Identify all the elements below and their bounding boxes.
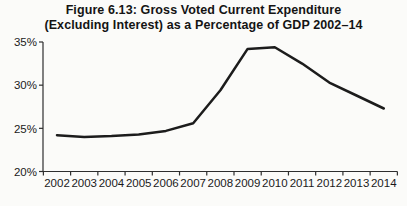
x-axis-tick-label: 2004 [99, 177, 125, 189]
line-chart-canvas: 20%25%30%35%2002200320042005200620072008… [0, 0, 407, 206]
y-axis-tick-label: 30% [14, 79, 37, 91]
x-axis-tick-label: 2002 [44, 177, 70, 189]
x-axis-tick-label: 2005 [126, 177, 152, 189]
x-axis-tick-label: 2007 [180, 177, 206, 189]
x-axis-tick-label: 2014 [371, 177, 397, 189]
x-axis-tick-label: 2010 [262, 177, 288, 189]
x-axis-tick-label: 2012 [317, 177, 343, 189]
x-axis-tick-label: 2009 [235, 177, 261, 189]
y-axis-tick-label: 35% [14, 36, 37, 48]
x-axis-tick-label: 2008 [208, 177, 234, 189]
data-line-series [57, 47, 384, 137]
x-axis-tick-label: 2006 [153, 177, 179, 189]
y-axis-tick-label: 20% [14, 166, 37, 178]
figure-6-13-chart: Figure 6.13: Gross Voted Current Expendi… [0, 0, 407, 206]
x-axis-tick-label: 2011 [290, 177, 315, 189]
y-axis-tick-label: 25% [14, 123, 37, 135]
x-axis-tick-label: 2003 [71, 177, 97, 189]
x-axis-tick-label: 2013 [344, 177, 370, 189]
